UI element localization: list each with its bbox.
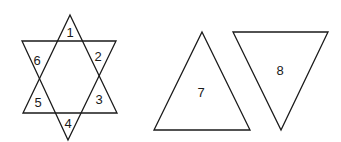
triangle-8-label: 8 (276, 63, 283, 78)
triangle-7-group: 7 (154, 32, 250, 130)
region-label-4: 4 (64, 116, 71, 131)
region-label-5: 5 (34, 95, 41, 110)
region-label-2: 2 (94, 49, 101, 64)
triangle-8 (233, 32, 328, 130)
region-label-3: 3 (95, 92, 102, 107)
triangle-7-label: 7 (197, 85, 204, 100)
triangle-8-group: 8 (233, 32, 328, 130)
triangle-7 (154, 32, 250, 130)
region-label-1: 1 (66, 25, 73, 40)
diagram-canvas: 1 2 3 4 5 6 7 8 (0, 0, 341, 142)
star-of-david: 1 2 3 4 5 6 (22, 15, 117, 140)
region-label-6: 6 (33, 53, 40, 68)
